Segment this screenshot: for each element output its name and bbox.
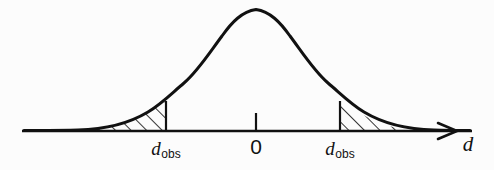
right-cutoff-variable: d (325, 138, 335, 159)
axis-variable-label: d (463, 134, 474, 155)
distribution-plot-svg (0, 0, 494, 170)
left-cutoff-variable: d (151, 138, 161, 159)
normal-distribution-curve (24, 10, 470, 131)
left-cutoff-label: dobs (151, 139, 181, 160)
horizontal-axis (22, 123, 472, 139)
distribution-figure: dobs 0 dobs d (0, 0, 494, 170)
left-cutoff-subscript: obs (161, 147, 181, 161)
right-cutoff-label: dobs (325, 139, 355, 160)
right-cutoff-subscript: obs (335, 147, 355, 161)
center-zero-label: 0 (250, 136, 262, 157)
